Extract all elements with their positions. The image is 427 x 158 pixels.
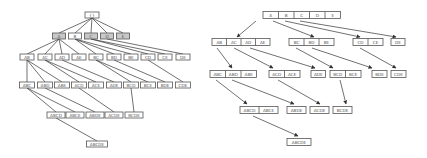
tree-edge [79,88,114,112]
arrow-edge [253,116,298,136]
node-label: BE [128,55,134,60]
node-group-cde: CDE [391,71,406,78]
arrow-edge [250,48,315,68]
tree-edge [45,88,95,112]
node-ace: ACE [89,82,104,88]
node-group-abc-abd-abe: ABCABDABE [210,71,257,78]
node-ad: AD [55,54,69,60]
cell-be: BE [324,40,330,45]
tree-edge [92,18,123,33]
cell-abd: ABD [229,72,238,77]
node-e: E [117,33,130,39]
tree-edge [75,39,96,54]
cell-ac: AC [231,40,237,45]
left-tree-nodes: {}ABCDEABACADAEBCBDBECDCEDEABCABDABEACDA… [20,12,191,147]
node-ce: CE [158,54,172,60]
node-de: DE [176,54,190,60]
node-abce: ABCE [66,112,84,118]
arrow-edge [296,48,333,68]
node-empty-set: {} [85,12,99,18]
cell-acd: ACD [272,72,281,77]
node-label: ABD [41,83,50,88]
node-group-ade: ADE [311,71,326,78]
tree-edge [75,39,114,54]
tree-edge [148,60,183,82]
cell-abcde: ABCDE [292,140,307,145]
node-label: ABE [58,83,67,88]
node-abcd: ABCD [47,112,65,118]
cell-bde: BDE [375,72,384,77]
node-ac: AC [38,54,52,60]
node-acde: ACDE [105,112,123,118]
node-label: AC [42,55,48,60]
node-label: CE [162,55,168,60]
node-label: E [122,34,125,39]
cell-a: A [269,13,272,18]
cell-e: E [331,13,334,18]
arrow-edge [273,21,314,37]
arrow-edge [234,48,273,68]
arrow-edge [237,21,256,37]
node-group-a-b-c-d-e: ABCDE [263,12,341,19]
arrow-edge [360,48,396,68]
node-label: B [74,34,77,39]
node-label: CD [145,55,151,60]
tree-edge [27,39,59,54]
node-label: ACDE [108,113,120,118]
cell-ce: CE [373,40,379,45]
node-cd: CD [141,54,155,60]
node-be: BE [124,54,138,60]
node-bd: BD [107,54,121,60]
node-label: ACD [75,83,84,88]
node-label: ACE [92,83,101,88]
node-label: ABCD [50,113,62,118]
tree-edge [45,60,79,82]
node-group-abcd-abce: ABCDABCE [240,107,278,114]
cell-cd: CD [357,40,363,45]
node-label: D [105,34,108,39]
node-label: ABDE [89,113,101,118]
node-group-acde: ACDE [310,107,329,114]
node-cde: CDE [176,82,191,88]
node-label: BCE [144,83,153,88]
tree-edge [27,60,62,82]
node-group-abde: ABDE [287,107,306,114]
cell-b: B [285,13,288,18]
node-bcde: BCDE [125,112,143,118]
node-a: A [53,33,66,39]
node-bde: BDE [158,82,173,88]
node-d: D [101,33,114,39]
node-label: BCD [127,83,136,88]
cell-bce: BCE [349,72,358,77]
cell-bc: BC [294,40,300,45]
node-label: BD [111,55,117,60]
node-group-bde: BDE [372,71,387,78]
node-label: AE [76,55,82,60]
subset-lattice-diagram: {}ABCDEABACADAEBCBDBECDCEDEABCABDABEACDA… [0,0,427,158]
tree-edge [59,18,92,33]
node-group-acd-ace: ACDACE [269,71,300,78]
node-label: AB [24,55,30,60]
node-label: ABC [23,83,32,88]
right-tree-groups: ABCDEABACADAEBCBDBECDCEDEABCABDABEACDACE… [210,12,406,146]
cell-abce: ABCE [263,108,275,113]
tree-edge [92,18,107,33]
node-acd: ACD [72,82,87,88]
cell-abcd: ABCD [244,108,256,113]
cell-ad: AD [245,40,251,45]
tree-edge [45,39,59,54]
arrow-edge [312,48,372,68]
tree-edge [131,88,134,112]
cell-de: DE [395,40,401,45]
cell-abde: ABDE [291,108,303,113]
arrow-edge [340,80,346,104]
node-label: DE [180,55,186,60]
tree-edge [96,60,131,82]
node-label: BDE [161,83,170,88]
arrow-edge [217,48,232,68]
tree-edge [27,88,75,112]
node-ab: AB [20,54,34,60]
arrow-edge [216,80,247,104]
cell-ace: ACE [288,72,297,77]
node-abc: ABC [20,82,35,88]
